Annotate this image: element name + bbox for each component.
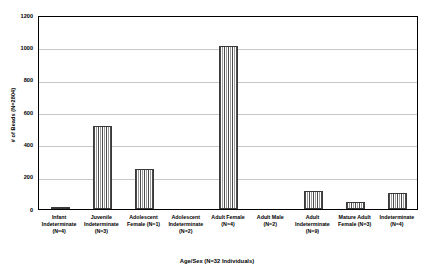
bar	[219, 46, 238, 209]
bar	[51, 207, 70, 209]
bar	[93, 126, 112, 209]
bar	[388, 193, 407, 209]
y-tick-label: 600	[3, 110, 33, 116]
x-tick-label-line: (N=2)	[159, 228, 213, 235]
y-tick-label: 400	[3, 142, 33, 148]
x-tick-label-line: (N=4)	[370, 221, 424, 228]
y-tick-label: 800	[3, 77, 33, 83]
bar-slot	[81, 17, 123, 209]
bar	[135, 169, 154, 209]
bar-series	[39, 17, 417, 209]
y-tick-label: 0	[3, 207, 33, 213]
x-tick-label-line: (N=9)	[285, 228, 339, 235]
bar-slot	[123, 17, 165, 209]
x-tick-label-line: Indeterminate	[370, 214, 424, 221]
x-tick-label: Indeterminate(N=4)	[370, 214, 424, 228]
bar-chart: # of Beads (N=2804) 02004006008001000120…	[0, 0, 434, 277]
bar	[346, 202, 365, 209]
bar-slot	[208, 17, 250, 209]
bar-slot	[250, 17, 292, 209]
bar-slot	[377, 17, 419, 209]
bar-slot	[166, 17, 208, 209]
x-tick-label-line: (N=3)	[74, 228, 128, 235]
y-tick-label: 1200	[3, 13, 33, 19]
bar-slot	[335, 17, 377, 209]
bar-slot	[39, 17, 81, 209]
y-tick-label: 200	[3, 174, 33, 180]
bar	[304, 191, 323, 209]
x-axis-title: Age/Sex (N=32 Individuals)	[0, 258, 434, 264]
plot-area	[38, 16, 418, 210]
y-tick-label: 1000	[3, 45, 33, 51]
bar-slot	[292, 17, 334, 209]
